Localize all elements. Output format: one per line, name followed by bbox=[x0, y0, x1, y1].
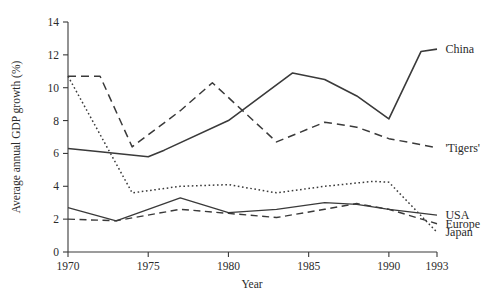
y-tick-label: 8 bbox=[53, 115, 59, 127]
chart-container: 02468101214 197019751980198519901993 Chi… bbox=[0, 0, 494, 303]
y-tick-label: 4 bbox=[53, 180, 59, 192]
y-tick-label: 0 bbox=[53, 246, 59, 258]
y-tick-label: 12 bbox=[48, 49, 60, 61]
y-tick-label: 14 bbox=[48, 16, 60, 28]
line-chart-plot: 02468101214 197019751980198519901993 Chi… bbox=[0, 0, 494, 303]
series-label-china: China bbox=[445, 42, 474, 56]
x-axis-ticks: 197019751980198519901993 bbox=[57, 252, 449, 272]
x-tick-label: 1993 bbox=[426, 260, 449, 272]
y-axis-title: Average annual GDP growth (%) bbox=[10, 61, 23, 214]
x-tick-label: 1980 bbox=[217, 260, 240, 272]
series-line-china bbox=[68, 49, 437, 157]
y-tick-label: 10 bbox=[48, 82, 60, 94]
y-tick-label: 2 bbox=[53, 213, 59, 225]
x-tick-label: 1985 bbox=[297, 260, 320, 272]
x-axis-title: Year bbox=[241, 278, 262, 290]
series-line-tigers bbox=[68, 76, 437, 147]
series-line-usa bbox=[68, 198, 437, 221]
x-tick-label: 1975 bbox=[137, 260, 160, 272]
y-axis-ticks: 02468101214 bbox=[48, 16, 69, 258]
x-tick-label: 1990 bbox=[377, 260, 400, 272]
data-series-group bbox=[68, 49, 437, 232]
series-label-europe: Europe bbox=[445, 217, 480, 231]
x-tick-label: 1970 bbox=[57, 260, 80, 272]
series-labels-group: China'Tigers'JapanUSAEurope bbox=[445, 42, 480, 239]
series-line-europe bbox=[68, 204, 437, 224]
y-tick-label: 6 bbox=[53, 147, 59, 159]
series-label-tigers: 'Tigers' bbox=[445, 141, 480, 155]
